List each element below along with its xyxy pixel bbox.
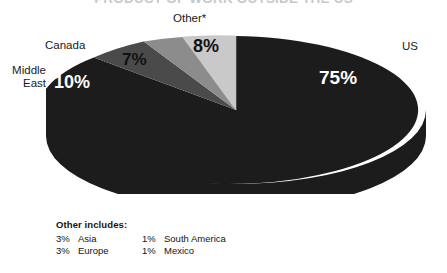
footnote-item-pct: 1% — [142, 245, 164, 258]
slice-label-middle-east-line1: Middle — [2, 64, 46, 77]
footnote-item: 3% Asia — [56, 233, 142, 246]
slice-label-canada: Canada — [45, 39, 85, 52]
footnote-item: 3% Europe — [56, 245, 142, 258]
footnote-row: 3% Asia 1% South America — [56, 233, 226, 246]
slice-value-us: 75% — [319, 67, 357, 89]
pie-svg — [46, 26, 426, 194]
slice-value-middle-east: 10% — [54, 72, 90, 93]
footnote-heading: Other includes: — [56, 219, 226, 232]
footnote-item-name: Europe — [78, 245, 109, 258]
footnote-item: 1% Mexico — [142, 245, 194, 258]
footnote-item-pct: 3% — [56, 233, 78, 246]
chart-title: PRODUCT OF WORK OUTSIDE THE US — [0, 0, 447, 6]
footnote-block: Other includes: 3% Asia 1% South America… — [56, 219, 226, 258]
slice-value-canada: 7% — [122, 50, 147, 70]
footnote-item-pct: 1% — [142, 233, 164, 246]
pie-chart-figure: PRODUCT OF WORK OUTSIDE THE US Other* Ca… — [0, 0, 447, 273]
slice-label-middle-east-line2: East — [2, 77, 46, 90]
slice-label-middle-east: Middle East — [2, 64, 46, 89]
pie-graphic — [46, 26, 426, 194]
slice-label-other: Other* — [173, 12, 206, 25]
footnote-item-pct: 3% — [56, 245, 78, 258]
slice-value-other: 8% — [193, 36, 219, 57]
footnote-item-name: South America — [164, 233, 226, 246]
footnote-item-name: Asia — [78, 233, 96, 246]
footnote-item: 1% South America — [142, 233, 226, 246]
footnote-row: 3% Europe 1% Mexico — [56, 245, 226, 258]
footnote-item-name: Mexico — [164, 245, 194, 258]
slice-label-us: US — [402, 40, 418, 53]
